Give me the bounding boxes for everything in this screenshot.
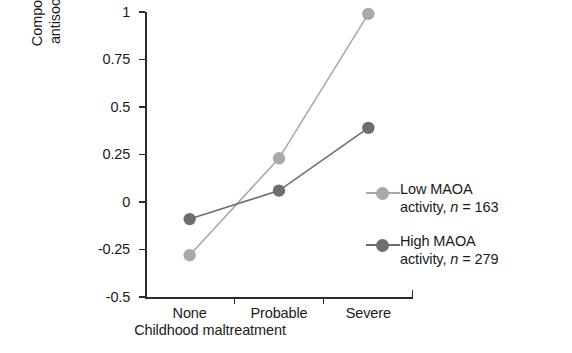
data-point-marker xyxy=(273,184,285,196)
x-axis-title: Childhood maltreatment xyxy=(0,322,420,338)
legend-label-line-1: High MAOA xyxy=(400,233,476,249)
y-axis-tick-label: -0.25 xyxy=(98,241,130,257)
legend-marker-icon xyxy=(366,184,400,202)
x-axis-spine xyxy=(145,297,413,299)
data-point-marker xyxy=(183,249,195,261)
legend-label: High MAOAactivity, n = 279 xyxy=(400,232,498,268)
y-axis-title-line-2: antisocial behavior xyxy=(47,0,65,44)
series-line xyxy=(190,128,369,219)
y-axis-tick-label: 0.25 xyxy=(103,146,130,162)
legend-marker-icon xyxy=(366,236,400,254)
y-axis-tick-label: -0.5 xyxy=(106,289,130,305)
series-line xyxy=(190,14,369,255)
legend-label-line-1: Low MAOA xyxy=(400,181,473,197)
y-axis-tick-label: 0 xyxy=(122,194,130,210)
y-axis-title-line-1: Composite index of xyxy=(29,0,47,46)
y-axis-tick-label: 1 xyxy=(122,4,130,20)
y-axis-tick-label: 0.5 xyxy=(110,99,130,115)
legend-label-line-2: activity, n = 163 xyxy=(400,198,498,216)
data-point-marker xyxy=(362,8,374,20)
data-point-marker xyxy=(273,152,285,164)
legend-label-line-2: activity, n = 279 xyxy=(400,250,498,268)
x-axis-tick xyxy=(234,297,235,304)
y-axis-tick-label: 0.75 xyxy=(103,51,130,67)
data-point-marker xyxy=(362,122,374,134)
x-axis-category-label: Probable xyxy=(251,305,308,321)
chart-figure: Composite index of antisocial behavior 1… xyxy=(0,0,572,353)
x-axis-tick xyxy=(323,297,324,304)
legend-item[interactable]: High MAOAactivity, n = 279 xyxy=(366,232,566,268)
y-axis-title: Composite index of antisocial behavior xyxy=(14,0,80,104)
legend-item[interactable]: Low MAOAactivity, n = 163 xyxy=(366,180,566,216)
x-axis-category-label: None xyxy=(173,305,207,321)
data-point-marker xyxy=(183,213,195,225)
legend-label: Low MAOAactivity, n = 163 xyxy=(400,180,498,216)
x-axis-category-label: Severe xyxy=(346,305,391,321)
chart-legend: Low MAOAactivity, n = 163High MAOAactivi… xyxy=(366,180,566,285)
